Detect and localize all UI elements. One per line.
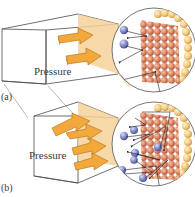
pressure-diagram [0,0,195,197]
pressure-label-a: Pressure [34,66,71,77]
panel-label-a: (a) [1,92,12,102]
molecular-inset-a [112,8,195,92]
panel-label-b: (b) [1,183,13,193]
panel-b [34,102,195,190]
pressure-label-b: Pressure [29,150,66,161]
wall-face-a [78,14,118,74]
molecular-inset-b [112,102,195,190]
